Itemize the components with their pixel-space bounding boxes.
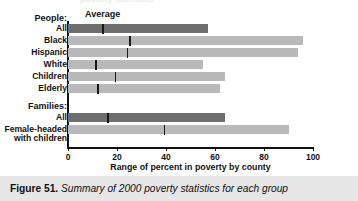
average-annotation: Average — [85, 9, 120, 19]
x-tick-80 — [264, 147, 265, 151]
bar-row-people-all — [68, 24, 313, 33]
figure-caption: Figure 51. Summary of 2000 poverty stati… — [0, 183, 288, 194]
bar-row-people-hispanic — [68, 48, 313, 57]
x-tick-20 — [117, 147, 118, 151]
bar-row-people-black — [68, 36, 313, 45]
x-tick-label-60: 60 — [210, 152, 219, 162]
average-marker-people-black — [129, 36, 131, 46]
bar-families-all — [68, 113, 225, 122]
average-marker-people-elderly — [97, 84, 99, 94]
category-label-people-elderly: Elderly — [38, 84, 67, 93]
bar-people-white — [68, 60, 203, 69]
average-marker-people-children — [115, 72, 117, 82]
category-label-people-hispanic: Hispanic — [31, 48, 67, 57]
average-marker-people-white — [95, 60, 97, 70]
bar-people-children — [68, 72, 225, 81]
x-tick-0 — [68, 147, 69, 151]
category-label-people-children: Children — [32, 72, 67, 81]
category-label-people-white: White — [44, 60, 67, 69]
bar-row-people-children — [68, 72, 313, 81]
figure-caption-band: Figure 51. Summary of 2000 poverty stati… — [0, 176, 358, 201]
category-label-families-all: All — [56, 113, 67, 122]
bar-row-people-white — [68, 60, 313, 69]
value-axis-line — [67, 147, 314, 149]
x-tick-40 — [166, 147, 167, 151]
x-tick-label-80: 80 — [259, 152, 268, 162]
average-marker-people-all — [102, 24, 104, 34]
bar-people-black — [68, 36, 303, 45]
female-headed-line2: with children — [14, 133, 67, 143]
x-axis-title: Range of percent in poverty by county — [67, 162, 314, 172]
x-tick-100 — [313, 147, 314, 151]
category-label-people-black: Black — [44, 36, 67, 45]
category-label-families-female-headed: Female-headed with children — [0, 125, 67, 142]
x-tick-label-100: 100 — [306, 152, 320, 162]
bar-people-elderly — [68, 84, 220, 93]
bar-row-families-female-headed — [68, 125, 313, 134]
x-tick-60 — [215, 147, 216, 151]
bar-row-families-all — [68, 113, 313, 122]
bar-people-all — [68, 24, 208, 33]
bar-families-female-headed — [68, 125, 289, 134]
category-label-people-all: All — [56, 24, 67, 33]
partial-text-ghost: poverty statistics — [80, 0, 154, 4]
figure-number: Figure 51. — [10, 183, 58, 194]
group-header-people: People: — [34, 14, 67, 23]
average-marker-families-all — [107, 113, 109, 123]
page-top-partial-text: poverty statistics — [0, 0, 358, 13]
average-marker-families-female-headed — [164, 125, 166, 135]
figure-caption-text: Summary of 2000 poverty statistics for e… — [61, 183, 288, 194]
group-header-families: Families: — [28, 102, 67, 111]
x-tick-label-0: 0 — [66, 152, 71, 162]
x-tick-label-40: 40 — [161, 152, 170, 162]
x-tick-label-20: 20 — [112, 152, 121, 162]
bar-row-people-elderly — [68, 84, 313, 93]
bar-people-hispanic — [68, 48, 298, 57]
average-marker-people-hispanic — [127, 48, 129, 58]
figure-chart-area: Average 0 20 40 60 80 100 People: All Bl… — [0, 13, 358, 168]
